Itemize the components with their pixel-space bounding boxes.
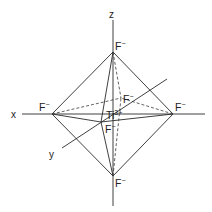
z-axis-label: z: [109, 9, 114, 20]
ligand-right-label: F−: [175, 101, 186, 113]
ligand-left-label: F−: [39, 101, 50, 113]
octahedron-diagram: z x y F− F− F− F− F− F− Ti3+: [0, 0, 212, 212]
edge-bottom-right: [113, 114, 173, 176]
ligand-bottom-label: F−: [115, 177, 126, 189]
ligand-front-label: F−: [105, 123, 116, 135]
edge-bottom-left: [52, 114, 113, 176]
edge-left-front: [52, 114, 101, 122]
x-axis-label: x: [11, 109, 16, 120]
ligand-back-label: F−: [123, 93, 134, 105]
y-axis-label: y: [49, 149, 54, 160]
ligand-top-label: F−: [115, 40, 126, 52]
center-ion-label: Ti3+: [106, 109, 122, 121]
